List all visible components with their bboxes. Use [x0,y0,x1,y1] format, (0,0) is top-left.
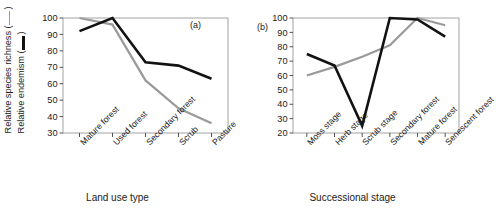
y-tick-label: 30 [277,114,287,124]
y-tick-label: 70 [47,62,57,72]
y-tick-label: 30 [47,128,57,138]
y-tick-label: 20 [277,128,287,138]
panel-tag: (a) [190,20,201,30]
chart-panel-a: Relative species richness ( ) Relative e… [0,0,235,216]
y-tick-label: 90 [47,30,57,40]
x-axis-title-a: Land use type [0,192,235,203]
y-tick-label: 100 [272,13,287,23]
y-tick-label: 60 [277,71,287,81]
y-tick-label: 40 [47,112,57,122]
panel-tag: (b) [257,22,268,32]
y-tick-label: 80 [47,46,57,56]
y-tick-label: 100 [42,13,57,23]
y-tick-label: 90 [277,28,287,38]
plot-area-a: 30405060708090100(a) [0,0,235,140]
y-tick-label: 70 [277,56,287,66]
y-tick-label: 80 [277,42,287,52]
y-tick-label: 50 [47,95,57,105]
y-tick-label: 50 [277,85,287,95]
x-axis-title-b: Successional stage [235,192,470,203]
y-tick-label: 40 [277,99,287,109]
y-tick-label: 60 [47,79,57,89]
chart-panel-b: 2030405060708090100(b) Moss stageHerb st… [235,0,470,216]
